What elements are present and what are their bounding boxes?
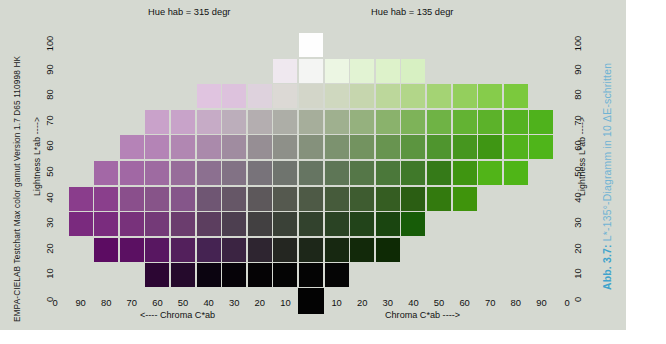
chart-page: EMPA-CIELAB Testchart Max color gamut Ve… [0,0,666,344]
gamut-cell [248,187,272,211]
gamut-cell [171,135,195,159]
gamut-cell [453,187,477,211]
gamut-cell [478,84,502,108]
gamut-cell [171,187,195,211]
gamut-cell [299,59,323,83]
gamut-cell [401,84,425,108]
gamut-cell [529,110,553,134]
gamut-cell [120,212,144,236]
gamut-cell [325,59,349,83]
gamut-cell [69,187,93,211]
gamut-cell [171,161,195,185]
gamut-cell [350,110,374,134]
gamut-cell [299,161,323,185]
gamut-cell [350,84,374,108]
gamut-cell [197,263,221,287]
gamut-cell [197,84,221,108]
gamut-cell [145,212,169,236]
gamut-cell [248,161,272,185]
gamut-cell [299,110,323,134]
gamut-cell [145,238,169,262]
gamut-cell [222,187,246,211]
gamut-cell [197,238,221,262]
gamut-cell [222,238,246,262]
gamut-cell [197,187,221,211]
gamut-cell [427,187,451,211]
gamut-cell [401,135,425,159]
gamut-cell [325,263,349,287]
gamut-cell [478,161,502,185]
chart-panel: EMPA-CIELAB Testchart Max color gamut Ve… [0,0,626,330]
gamut-cell [299,84,323,108]
gamut-cell [145,263,169,287]
gamut-cell [171,110,195,134]
gamut-cell [350,187,374,211]
gamut-cell [401,187,425,211]
gamut-cell [453,84,477,108]
gamut-cell [94,161,118,185]
gamut-cell [222,110,246,134]
gamut-cell [171,263,195,287]
gamut-cell [248,263,272,287]
gamut-cell [145,161,169,185]
gamut-cell [376,59,400,83]
gamut-cell [401,161,425,185]
gamut-cell [222,84,246,108]
gamut-cell [248,110,272,134]
gamut-cell [376,161,400,185]
gamut-cell [222,161,246,185]
gamut-cell [197,110,221,134]
gamut-cell [376,212,400,236]
gamut-cell [325,135,349,159]
gamut-cell [401,212,425,236]
gamut-cell [94,187,118,211]
black-reference-patch [298,288,324,314]
gamut-cell [197,135,221,159]
gamut-cell [325,161,349,185]
gamut-cell [325,110,349,134]
gamut-cell [248,84,272,108]
gamut-cell [145,110,169,134]
gamut-cell [427,110,451,134]
gamut-cell [273,263,297,287]
gamut-cell [120,161,144,185]
gamut-cell [222,135,246,159]
gamut-cell [222,263,246,287]
gamut-cell [248,212,272,236]
gamut-cell [325,187,349,211]
gamut-cell [401,59,425,83]
gamut-cell [299,187,323,211]
gamut-cell [248,135,272,159]
gamut-cell [427,84,451,108]
gamut-cell [273,212,297,236]
gamut-cell [222,212,246,236]
gamut-cell [453,161,477,185]
gamut-cell [273,238,297,262]
gamut-cell [478,110,502,134]
gamut-cell [376,110,400,134]
gamut-cell [299,212,323,236]
gamut-cell [120,238,144,262]
gamut-cell [171,238,195,262]
gamut-cell [94,238,118,262]
gamut-cell [273,161,297,185]
gamut-cell [325,238,349,262]
gamut-cell [197,161,221,185]
gamut-cell [453,110,477,134]
gamut-cell [350,161,374,185]
gamut-cell [350,238,374,262]
gamut-cell [273,59,297,83]
gamut-cell [376,135,400,159]
gamut-cell [273,187,297,211]
gamut-cell [350,135,374,159]
gamut-cell [273,84,297,108]
gamut-cell [427,161,451,185]
gamut-cell [504,161,528,185]
gamut-cell [69,212,93,236]
gamut-cell [171,212,195,236]
gamut-cell [248,238,272,262]
gamut-cell [350,212,374,236]
gamut-cell [120,187,144,211]
gamut-cell [299,238,323,262]
gamut-cell [504,135,528,159]
